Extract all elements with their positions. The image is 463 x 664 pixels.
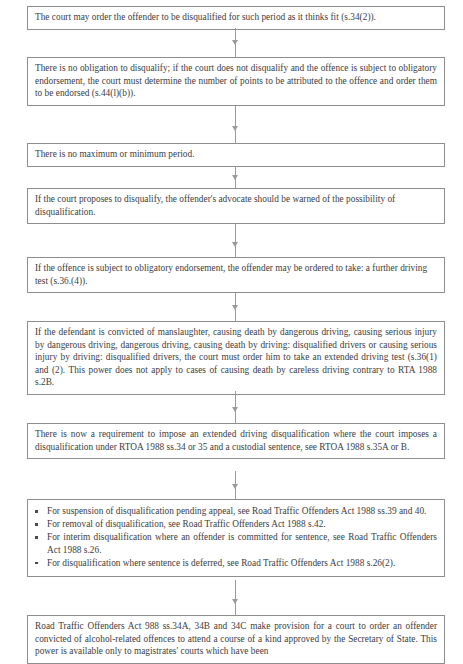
flowchart-node-4: If the court proposes to disqualify, the… — [27, 188, 445, 224]
bullet-square-icon — [35, 510, 38, 513]
list-item-text: For disqualification where sentence is d… — [47, 558, 395, 568]
flowchart-node-5: If the offence is subject to obligatory … — [27, 257, 445, 293]
flowchart-node-9: Road Traffic Offenders Act 988 ss.34A, 3… — [27, 615, 445, 664]
flowchart-connector-2-3 — [235, 106, 236, 143]
list-item: For disqualification where sentence is d… — [32, 557, 437, 570]
list-item-text: For removal of disqualification, see Roa… — [47, 519, 326, 529]
bullet-square-icon — [35, 562, 38, 565]
list-item-text: For interim disqualification where an of… — [47, 532, 437, 555]
flowchart-node-2: There is no obligation to disqualify; if… — [27, 57, 445, 106]
list-item: For interim disqualification where an of… — [32, 531, 437, 556]
flowchart-node-3: There is no maximum or minimum period. — [27, 143, 445, 167]
node-text: If the defendant is convicted of manslau… — [35, 326, 437, 389]
flowchart-connector-6-7 — [235, 391, 236, 423]
flowchart-connector-8-9 — [235, 580, 236, 615]
arrowhead-icon — [232, 175, 238, 180]
node-text: If the court proposes to disqualify, the… — [35, 193, 437, 218]
flowchart-node-1: The court may order the offender to be d… — [27, 6, 445, 30]
arrowhead-icon — [232, 126, 238, 131]
bullet-square-icon — [35, 523, 38, 526]
node-text: The court may order the offender to be d… — [35, 11, 437, 24]
list-item: For suspension of disqualification pendi… — [32, 505, 437, 518]
flowchart-node-7: There is now a requirement to impose an … — [27, 423, 445, 459]
node-text: If the offence is subject to obligatory … — [35, 262, 437, 287]
flowchart-connector-3-4 — [235, 166, 236, 188]
flowchart-connector-4-5 — [235, 224, 236, 257]
node-text: There is no obligation to disqualify; if… — [35, 62, 437, 100]
flowchart-node-8: For suspension of disqualification pendi… — [27, 499, 445, 577]
arrowhead-icon — [232, 407, 238, 412]
arrowhead-icon — [232, 40, 238, 45]
flowchart-node-6: If the defendant is convicted of manslau… — [27, 321, 445, 395]
bullet-square-icon — [35, 536, 38, 539]
flowchart-connector-7-8 — [235, 471, 236, 499]
node-text: There is no maximum or minimum period. — [35, 148, 437, 161]
bullet-list: For suspension of disqualification pendi… — [32, 505, 437, 569]
arrowhead-icon — [232, 599, 238, 604]
arrowhead-icon — [232, 484, 238, 489]
flowchart-connector-1-2 — [235, 28, 236, 57]
arrowhead-icon — [232, 242, 238, 247]
list-item: For removal of disqualification, see Roa… — [32, 518, 437, 531]
node-text: Road Traffic Offenders Act 988 ss.34A, 3… — [35, 620, 437, 658]
list-item-text: For suspension of disqualification pendi… — [47, 506, 426, 516]
node-text: There is now a requirement to impose an … — [35, 428, 437, 453]
arrowhead-icon — [232, 305, 238, 310]
flowchart-connector-5-6 — [235, 293, 236, 321]
